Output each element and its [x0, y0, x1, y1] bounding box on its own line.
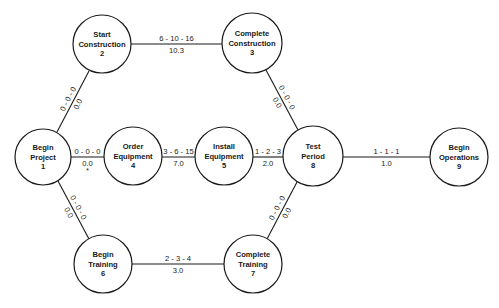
- edge-expected-time-label: 1.0: [381, 159, 392, 168]
- edge-expected-time-label: 0.0: [62, 206, 75, 220]
- node-number: 7: [251, 269, 255, 278]
- node-name-line: Operations: [439, 153, 479, 162]
- edge-expected-time-label: 2.0: [263, 159, 274, 168]
- pert-network-diagram: 0 - 0 - 00.06 - 10 - 1610.30 - 0 - 00.0*…: [0, 0, 499, 308]
- edge-expected-time-label: 7.0: [173, 159, 184, 168]
- node-6: BeginTraining6: [74, 235, 132, 293]
- node-name-line: Training: [238, 260, 268, 269]
- edge-estimates-label: 3 - 6 - 15: [163, 147, 193, 156]
- node-name-line: Complete: [235, 29, 270, 38]
- edge-estimates-label: 6 - 10 - 16: [159, 34, 194, 43]
- edge-2-3: 6 - 10 - 1610.3: [131, 34, 222, 55]
- edge-expected-time-label: 3.0: [173, 266, 184, 275]
- node-4: OrderEquipment4: [104, 127, 162, 185]
- node-name-line: Start: [93, 30, 111, 39]
- edge-1-2: 0 - 0 - 00.0: [57, 71, 89, 132]
- node-name-line: Begin: [448, 143, 469, 152]
- node-number: 9: [457, 162, 461, 171]
- node-1: BeginProject1: [15, 129, 71, 185]
- node-name-line: Install: [213, 142, 235, 151]
- edge-estimates-label: 1 - 2 - 3: [255, 147, 281, 156]
- edge-1-6: 0 - 0 - 00.0: [58, 181, 89, 239]
- edge-5-8: 1 - 2 - 32.0: [253, 147, 283, 168]
- node-number: 6: [101, 269, 105, 278]
- edge-6-7: 2 - 3 - 43.0: [132, 254, 224, 275]
- edge-7-8: 0 - 0 - 00.0: [267, 182, 297, 239]
- node-name-line: Complete: [236, 250, 271, 259]
- node-9: BeginOperations9: [430, 128, 488, 186]
- node-name-line: Equipment: [204, 152, 244, 161]
- node-name-line: Training: [88, 260, 118, 269]
- edge-4-5: 3 - 6 - 157.0: [162, 147, 195, 168]
- node-number: 8: [311, 161, 315, 170]
- node-name-line: Equipment: [113, 152, 153, 161]
- edge-estimates-label: 1 - 1 - 1: [373, 147, 399, 156]
- node-name-line: Begin: [92, 250, 113, 259]
- edge-3-8: 0 - 0 - 00.0: [266, 70, 298, 130]
- critical-path-marker: *: [86, 166, 89, 175]
- node-name-line: Construction: [228, 39, 276, 48]
- edge-expected-time-label: 0.0: [271, 96, 284, 110]
- node-name-line: Period: [301, 152, 325, 161]
- node-3: CompleteConstruction3: [222, 13, 282, 73]
- node-number: 3: [250, 48, 254, 57]
- node-number: 2: [100, 49, 104, 58]
- node-2: StartConstruction2: [73, 15, 131, 73]
- node-name-line: Project: [30, 153, 56, 162]
- edge-estimates-label: 2 - 3 - 4: [165, 254, 191, 263]
- node-name-line: Test: [305, 142, 321, 151]
- node-name-line: Construction: [78, 40, 126, 49]
- node-name-line: Order: [123, 142, 144, 151]
- edge-expected-time-label: 10.3: [169, 46, 184, 55]
- edge-1-4: 0 - 0 - 00.0*: [71, 147, 104, 175]
- edge-8-9: 1 - 1 - 11.0: [343, 147, 430, 168]
- edge-expected-time-label: 0.0: [71, 97, 84, 111]
- node-5: InstallEquipment5: [195, 127, 253, 185]
- node-8: TestPeriod8: [283, 126, 343, 186]
- edge-expected-time-label: 0.0: [280, 206, 293, 220]
- edge-estimates-label: 0 - 0 - 0: [74, 147, 100, 156]
- node-name-line: Begin: [32, 143, 53, 152]
- node-7: CompleteTraining7: [224, 235, 282, 293]
